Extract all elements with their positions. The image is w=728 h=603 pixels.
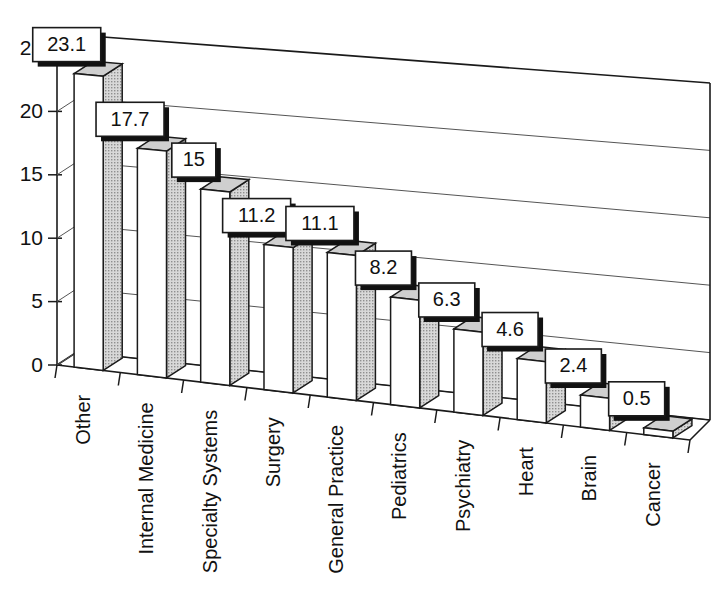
- y-tick-label-10: 10: [20, 226, 43, 249]
- chart-container: 0510152025 23.117.71511.211.18.26.34.62.…: [0, 0, 728, 603]
- x-tick-mark-3: [245, 388, 247, 401]
- data-label-text: 23.1: [47, 33, 86, 55]
- x-tick-mark-8: [561, 425, 563, 438]
- category-label-surgery: Surgery: [262, 417, 284, 487]
- category-label-cancer: Cancer: [642, 462, 664, 527]
- x-tick-mark-2: [182, 380, 184, 393]
- category-label-internal-medicine: Internal Medicine: [135, 402, 157, 554]
- category-label-pediatrics: Pediatrics: [388, 432, 410, 520]
- data-label-text: 15: [183, 148, 205, 170]
- y-tick-label-0: 0: [31, 353, 43, 376]
- data-label-cancer: 0.5: [609, 382, 670, 421]
- y-tick-label-15: 15: [20, 162, 43, 185]
- y-tick-label-20: 20: [20, 99, 43, 122]
- x-tick-mark-4: [308, 395, 310, 408]
- data-label-surgery: 11.2: [223, 199, 296, 238]
- category-label-specialty-systems: Specialty Systems: [199, 410, 221, 573]
- data-label-text: 4.6: [496, 318, 524, 340]
- x-tick-mark-9: [625, 433, 627, 446]
- data-label-text: 11.1: [301, 212, 338, 234]
- category-label-brain: Brain: [578, 455, 600, 502]
- x-tick-mark-0: [55, 365, 57, 378]
- data-label-general-practice: 11.1: [286, 206, 359, 245]
- category-label-heart: Heart: [515, 447, 537, 496]
- bar-chart-3d: 0510152025 23.117.71511.211.18.26.34.62.…: [0, 0, 728, 603]
- data-label-text: 2.4: [559, 354, 587, 376]
- bar-surgery: [264, 232, 312, 393]
- data-label-text: 17.7: [111, 108, 150, 130]
- category-label-general-practice: General Practice: [325, 425, 347, 574]
- category-label-other: Other: [72, 394, 94, 444]
- x-tick-mark-7: [498, 418, 500, 431]
- data-label-internal-medicine: 17.7: [96, 102, 169, 141]
- data-label-text: 6.3: [433, 288, 461, 310]
- x-tick-mark-5: [372, 403, 374, 416]
- data-label-brain: 2.4: [545, 349, 606, 388]
- y-axis-ticks: 0510152025: [20, 35, 77, 376]
- x-tick-mark-1: [118, 373, 120, 386]
- data-label-pediatrics: 8.2: [355, 251, 416, 290]
- data-label-text: 0.5: [623, 387, 651, 409]
- data-label-text: 11.2: [238, 204, 275, 226]
- y-tick-label-5: 5: [31, 289, 43, 312]
- data-label-heart: 4.6: [482, 313, 543, 352]
- data-label-other: 23.1: [33, 28, 106, 67]
- data-label-text: 8.2: [370, 256, 398, 278]
- x-tick-mark-end: [688, 440, 690, 453]
- data-label-psychiatry: 6.3: [419, 283, 480, 322]
- data-label-specialty-systems: 15: [172, 143, 221, 182]
- category-label-psychiatry: Psychiatry: [452, 440, 474, 532]
- gridline-25: [77, 35, 710, 83]
- x-tick-mark-6: [435, 410, 437, 423]
- floor-right-edge: [690, 420, 710, 440]
